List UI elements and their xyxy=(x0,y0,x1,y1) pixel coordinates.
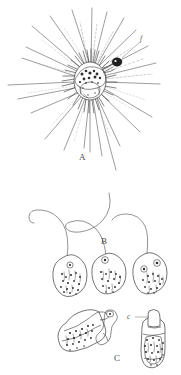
panel-label-a: A xyxy=(79,152,86,162)
flagellate-cell-middle xyxy=(92,253,126,294)
panel-c-group xyxy=(58,310,165,368)
panel-a-group xyxy=(8,8,160,170)
loricate-cell-left xyxy=(58,310,117,352)
figure-illustration: .ax { stroke:#4b4b4b; stroke-width:0.55;… xyxy=(0,0,181,375)
cell-body-a xyxy=(74,62,106,100)
collar-structure xyxy=(148,310,160,328)
panel-label-b: B xyxy=(101,236,108,246)
figure-plate: .ax { stroke:#4b4b4b; stroke-width:0.55;… xyxy=(0,0,181,375)
callout-label-c: c xyxy=(127,312,130,321)
panel-label-c: C xyxy=(114,353,121,363)
flagellum-left xyxy=(29,210,68,258)
flagellum-right xyxy=(112,214,148,254)
panel-b-group xyxy=(29,193,167,297)
flagellate-cell-right xyxy=(133,253,167,294)
callout-label-f: f xyxy=(140,34,142,43)
flagellate-cell-left xyxy=(53,255,87,297)
loricate-cell-right xyxy=(141,310,165,368)
leader-line-f xyxy=(122,42,140,58)
